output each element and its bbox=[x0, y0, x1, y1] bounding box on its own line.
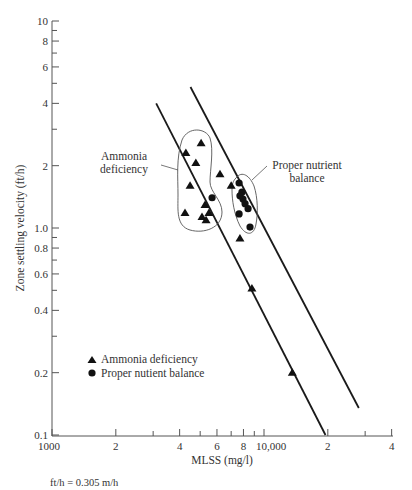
triangle-marker bbox=[235, 234, 244, 242]
x-tick-label: 2 bbox=[325, 440, 331, 452]
x-tick-label: 8 bbox=[241, 440, 247, 452]
y-tick-label: 0.4 bbox=[34, 304, 48, 316]
x-tick-label: 4 bbox=[177, 440, 183, 452]
lower-bound-line bbox=[156, 103, 325, 435]
y-tick-label: 6 bbox=[43, 61, 49, 73]
triangle-marker bbox=[197, 139, 206, 147]
y-tick-label: 0.2 bbox=[34, 367, 48, 379]
circle-marker bbox=[235, 179, 242, 186]
legend-label-ammonia: Ammonia deficiency bbox=[101, 353, 198, 366]
triangle-marker bbox=[191, 159, 200, 167]
footnote: ft/h = 0.305 m/h bbox=[50, 477, 119, 488]
x-tick-label: 10,000 bbox=[256, 440, 287, 452]
circle-marker bbox=[235, 210, 242, 217]
x-axis-label: MLSS (mg/l) bbox=[191, 454, 253, 467]
y-tick-label: 0.8 bbox=[34, 242, 48, 254]
triangle-marker bbox=[227, 181, 236, 189]
legend-circle-icon bbox=[88, 369, 95, 376]
circle-marker bbox=[246, 224, 253, 231]
legend-label-nutrient: Proper nutient balance bbox=[101, 367, 204, 380]
y-tick-label: 8 bbox=[43, 35, 49, 47]
ammonia-leader-line bbox=[161, 165, 178, 170]
settling-velocity-chart: 0.10.20.40.60.81.02468101000246810,00024… bbox=[0, 0, 412, 490]
x-tick-label: 2 bbox=[113, 440, 119, 452]
upper-bound-line bbox=[190, 87, 358, 408]
circle-marker bbox=[244, 205, 251, 212]
y-tick-label: 4 bbox=[43, 97, 49, 109]
x-tick-label: 1000 bbox=[38, 440, 61, 452]
axes: 0.10.20.40.60.81.02468101000246810,00024 bbox=[34, 15, 395, 452]
y-tick-label: 2 bbox=[43, 160, 49, 172]
annotation-nutrient-line2: balance bbox=[289, 172, 324, 184]
y-tick-label: 1.0 bbox=[34, 222, 48, 234]
triangle-marker bbox=[288, 368, 297, 376]
y-tick-label: 0.6 bbox=[34, 268, 48, 280]
triangle-marker bbox=[181, 209, 190, 217]
circle-marker bbox=[208, 194, 215, 201]
triangle-marker bbox=[186, 181, 195, 189]
annotation-nutrient-line1: Proper nutrient bbox=[272, 159, 342, 172]
annotation-ammonia-line2: deficiency bbox=[100, 163, 148, 176]
y-tick-label: 10 bbox=[37, 15, 49, 27]
x-tick-label: 4 bbox=[389, 440, 395, 452]
triangle-marker bbox=[181, 149, 190, 157]
legend-triangle-icon bbox=[88, 356, 97, 363]
trend-lines bbox=[156, 87, 359, 435]
nutrient-leader-line bbox=[252, 166, 267, 180]
annotation-ammonia-line1: Ammonia bbox=[101, 150, 147, 162]
y-axis-label: Zone settling velocity (ft/h) bbox=[14, 164, 27, 291]
legend: Ammonia deficiency Proper nutient balanc… bbox=[88, 353, 205, 380]
x-tick-label: 6 bbox=[214, 440, 220, 452]
triangle-marker bbox=[215, 170, 224, 178]
